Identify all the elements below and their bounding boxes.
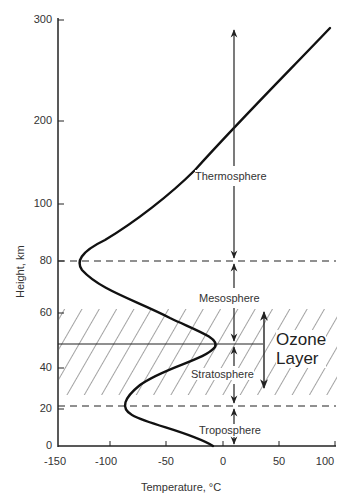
y-tick-80: 80 — [22, 254, 52, 266]
y-tick-40: 40 — [22, 361, 52, 373]
x-tick-50: 50 — [259, 455, 299, 467]
y-tick-0: 0 — [22, 439, 52, 451]
ozone-label-line1: Ozone — [276, 330, 326, 349]
y-axis-label: Height, km — [14, 245, 26, 298]
diagram-canvas — [0, 0, 347, 502]
thermosphere-label: Thermosphere — [195, 170, 267, 182]
y-tick-200: 200 — [22, 114, 52, 126]
x-tick-minus100: -100 — [86, 455, 126, 467]
troposphere-label: Troposphere — [199, 424, 261, 436]
x-tick-minus50: -50 — [146, 455, 186, 467]
y-tick-60: 60 — [22, 306, 52, 318]
x-axis-label: Temperature, °C — [141, 481, 221, 493]
y-tick-20: 20 — [22, 402, 52, 414]
ozone-layer-label: Ozone Layer — [276, 330, 326, 368]
y-tick-300: 300 — [22, 13, 52, 25]
ozone-label-line2: Layer — [276, 349, 326, 368]
stratosphere-label: Stratosphere — [191, 368, 254, 380]
mesosphere-label: Mesosphere — [199, 292, 260, 304]
x-tick-0: 0 — [203, 455, 243, 467]
x-tick-100: 100 — [305, 455, 345, 467]
y-tick-100: 100 — [22, 197, 52, 209]
x-tick-minus150: -150 — [35, 455, 75, 467]
